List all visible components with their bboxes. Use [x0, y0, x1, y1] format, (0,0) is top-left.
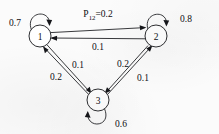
edge-1-to-2-label-value: =0.2 — [95, 9, 112, 19]
edge-2-to-1-line — [52, 38, 146, 39]
edge-3-to-2-line — [107, 46, 151, 94]
node-1-label: 1 — [38, 32, 43, 42]
edge-3-to-1-label: 0.2 — [50, 72, 62, 82]
node-2-label: 2 — [154, 32, 159, 42]
edge-1-to-2 — [50, 25, 146, 32]
self-loop-node-2-arrowhead — [163, 20, 169, 27]
edge-3-to-2 — [107, 45, 152, 95]
state-transition-graph: 1 2 3 0.7 0.8 0.6 P12=0.2 0.1 0.1 0.2 0.… — [0, 0, 219, 134]
node-2[interactable]: 2 — [145, 25, 167, 47]
edge-3-to-2-label: 0.1 — [137, 73, 149, 83]
edge-2-to-3-label: 0.2 — [117, 59, 129, 69]
edge-2-to-3-line — [105, 46, 148, 93]
self-loop-node-2-label: 0.8 — [180, 14, 192, 24]
node-3-label: 3 — [96, 96, 101, 106]
edge-1-to-3-label: 0.1 — [72, 60, 84, 70]
edge-2-to-1 — [50, 36, 146, 41]
edge-2-to-1-label: 0.1 — [92, 42, 104, 52]
edge-1-to-3 — [47, 45, 91, 94]
node-1[interactable]: 1 — [29, 25, 51, 47]
edge-1-to-2-label: P12=0.2 — [83, 9, 113, 20]
self-loop-node-3 — [85, 109, 106, 124]
edge-3-to-1-arrowhead — [43, 46, 49, 53]
edge-1-to-2-line — [50, 28, 145, 33]
edge-2-to-3 — [104, 46, 148, 95]
self-loop-node-1-arrowhead — [46, 20, 52, 26]
node-3[interactable]: 3 — [87, 89, 109, 111]
edge-3-to-1 — [43, 46, 89, 94]
self-loop-node-3-arrowhead — [85, 111, 91, 118]
edge-1-to-2-arrowhead — [140, 25, 147, 30]
self-loop-node-1-label: 0.7 — [9, 18, 21, 28]
diagram-canvas: 1 2 3 0.7 0.8 0.6 P12=0.2 0.1 0.1 0.2 0.… — [0, 0, 219, 134]
edge-3-to-1-line — [44, 47, 89, 94]
self-loop-node-3-label: 0.6 — [115, 119, 127, 129]
